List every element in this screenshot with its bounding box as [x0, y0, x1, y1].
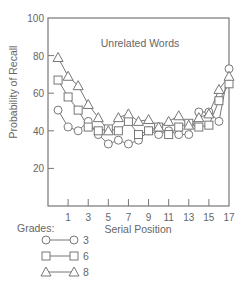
circle-marker	[104, 140, 112, 148]
chart-title: Unrelated Words	[101, 37, 180, 49]
y-tick-label: 80	[33, 51, 45, 62]
y-tick-label: 20	[33, 163, 45, 174]
circle-marker	[124, 140, 132, 148]
circle-marker	[185, 131, 193, 139]
square-marker	[84, 123, 92, 131]
x-tick-label: 13	[183, 212, 195, 223]
square-marker	[135, 131, 143, 139]
circle-marker	[54, 106, 62, 114]
legend-square-icon	[42, 252, 50, 260]
legend-label-grade-3: 3	[83, 234, 89, 246]
triangle-marker	[174, 111, 184, 120]
square-marker	[94, 127, 102, 135]
square-marker	[124, 117, 132, 125]
legend-label-grade-6: 6	[83, 250, 89, 262]
square-marker	[114, 127, 122, 135]
circle-marker	[64, 123, 72, 131]
square-marker	[175, 123, 183, 131]
x-tick-label: 1	[65, 212, 71, 223]
square-marker	[165, 131, 173, 139]
x-tick-label: 3	[85, 212, 91, 223]
square-marker	[215, 97, 223, 105]
legend-circle-icon	[42, 236, 50, 244]
x-tick-label: 7	[126, 212, 132, 223]
circle-marker	[215, 117, 223, 125]
triangle-marker	[53, 52, 63, 61]
y-axis-label: Probability of Recall	[7, 46, 19, 139]
x-tick-label: 5	[106, 212, 112, 223]
triangle-marker	[113, 113, 123, 122]
legend-square-icon	[70, 252, 78, 260]
y-tick-label: 40	[33, 126, 45, 137]
triangle-marker	[214, 84, 224, 93]
square-marker	[54, 76, 62, 84]
legend-title: Grades:	[17, 222, 54, 234]
circle-marker	[175, 131, 183, 139]
y-tick-label: 100	[27, 13, 44, 24]
triangle-marker	[164, 116, 174, 125]
square-marker	[205, 121, 213, 129]
square-marker	[145, 127, 153, 135]
legend-label-grade-8: 8	[83, 266, 89, 278]
x-tick-label: 9	[146, 212, 152, 223]
square-marker	[225, 80, 233, 88]
square-marker	[74, 106, 82, 114]
triangle-marker	[93, 113, 103, 122]
square-marker	[64, 93, 72, 101]
triangle-marker	[83, 99, 93, 108]
circle-marker	[74, 127, 82, 135]
x-tick-label: 11	[163, 212, 174, 223]
x-axis-label: Serial Position	[104, 223, 171, 235]
legend-circle-icon	[70, 236, 78, 244]
x-tick-label: 17	[223, 212, 235, 223]
triangle-marker	[144, 115, 154, 124]
chart: 204060801001357911131517Unrelated WordsS…	[0, 0, 244, 291]
x-tick-label: 15	[203, 212, 215, 223]
square-marker	[195, 123, 203, 131]
circle-marker	[114, 136, 122, 144]
y-tick-label: 60	[33, 88, 45, 99]
triangle-marker	[224, 71, 234, 80]
triangle-marker	[63, 71, 73, 80]
triangle-marker	[123, 109, 133, 118]
circle-marker	[155, 131, 163, 139]
